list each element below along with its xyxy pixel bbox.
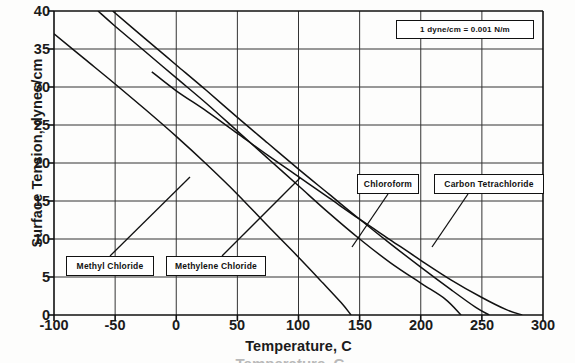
cropped-caption-artifact: Temperature, C	[120, 355, 460, 363]
series-label-carbon-tetrachloride: Carbon Tetrachloride	[434, 174, 544, 194]
series-label-methyl-chloride: Methyl Chloride	[66, 256, 154, 276]
leader-methyl-chloride	[110, 177, 190, 256]
unit-note-box: 1 dyne/cm = 0.001 N/m	[396, 20, 534, 39]
chart-screenshot: Surface Tension, dynes/cm 40 35 30 25 20…	[0, 0, 575, 363]
series-label-methylene-chloride: Methylene Chloride	[166, 256, 266, 276]
series-label-chloroform: Chloroform	[357, 174, 419, 194]
